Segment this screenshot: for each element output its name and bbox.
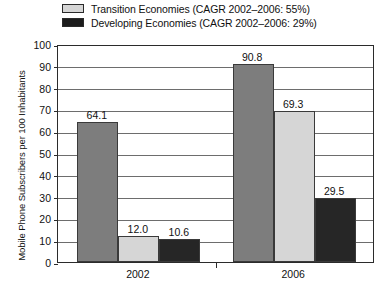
legend-swatch-icon-transition [62,4,84,13]
legend-item-developing-economies: Developing Economies (CAGR 2002–2006: 29… [62,16,372,29]
bar-chart: Transition Economies (CAGR 2002–2006: 55… [0,0,390,301]
chart-legend: Transition Economies (CAGR 2002–2006: 55… [62,2,372,30]
bar-value-label: 90.8 [226,52,279,63]
legend-label-transition: Transition Economies (CAGR 2002–2006: 55… [91,3,310,15]
gridline [58,67,373,68]
legend-swatch-icon-developing [62,18,84,27]
bar-value-label: 69.3 [267,99,320,110]
y-axis-label: 0 [21,258,51,268]
y-axis-tick [54,264,58,265]
bar-value-label: 10.6 [152,227,205,238]
y-axis-tick [54,176,58,177]
y-axis-label: 80 [21,84,51,94]
legend-label-developing: Developing Economies (CAGR 2002–2006: 29… [91,17,317,29]
y-axis-tick [54,89,58,90]
y-axis-tick [54,133,58,134]
y-axis-tick [54,46,58,47]
plot-area [57,45,374,263]
y-axis-tick [54,242,58,243]
y-axis-label: 10 [21,236,51,246]
bar [118,236,159,262]
bar [315,198,356,262]
x-axis-label: 2006 [253,268,333,280]
bar [159,239,200,262]
bar-value-label: 29.5 [308,186,361,197]
y-axis-label: 50 [21,149,51,159]
x-axis-group-separator-tick [216,263,217,268]
legend-item-transition-economies: Transition Economies (CAGR 2002–2006: 55… [62,2,372,15]
y-axis-tick [54,67,58,68]
y-axis-label: 30 [21,193,51,203]
y-axis-tick [54,198,58,199]
y-axis-label: 40 [21,171,51,181]
page-bottom-margin [0,287,390,301]
y-axis-label: 70 [21,105,51,115]
y-axis-tick [54,220,58,221]
bar-value-label: 64.1 [70,110,123,121]
y-axis-label: 100 [21,40,51,50]
x-axis-label: 2002 [98,268,178,280]
bar [233,64,274,262]
y-axis-title: Mobile Phone Subscribers per 100 Inhabit… [16,41,27,291]
gridline [58,89,373,90]
y-axis-label: 90 [21,62,51,72]
y-axis-tick [54,155,58,156]
bar [77,122,118,262]
y-axis-tick [54,111,58,112]
y-axis-label: 60 [21,127,51,137]
y-axis-label: 20 [21,214,51,224]
